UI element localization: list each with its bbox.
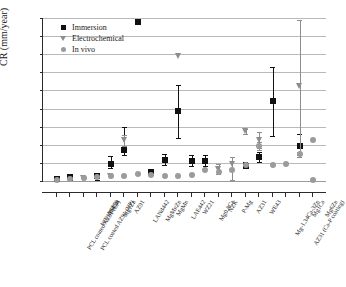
y-tick-mark [40, 36, 43, 37]
x-tick-mark [191, 192, 192, 197]
error-bar-cap [243, 134, 248, 135]
gridline [43, 181, 326, 182]
y-tick-mark [40, 127, 43, 128]
circle-icon [56, 47, 70, 52]
error-bar-cap [162, 154, 167, 155]
data-point-marker [189, 172, 195, 178]
x-tick-mark [69, 192, 70, 197]
x-tick-mark [96, 192, 97, 197]
data-point-marker [175, 108, 181, 114]
x-tick-mark [177, 192, 178, 197]
x-tick-label: AZ31 [255, 199, 268, 215]
data-point-marker [202, 158, 208, 164]
error-bar-cap [122, 146, 127, 147]
error-bar-cap [297, 20, 302, 21]
x-tick-mark [123, 192, 124, 197]
error-bar-cap [230, 180, 235, 181]
error-bar-cap [176, 138, 181, 139]
y-tick-mark [40, 54, 43, 55]
data-point-marker [216, 169, 222, 175]
x-tick-mark [299, 192, 300, 197]
error-bar-cap [270, 136, 275, 137]
data-point-marker [310, 137, 316, 143]
legend-label: In vivo [70, 44, 95, 55]
error-bar-cap [203, 155, 208, 156]
x-tick-mark [150, 192, 151, 197]
x-tick-mark [312, 192, 313, 197]
error-bar-cap [122, 135, 127, 136]
x-tick-mark [164, 192, 165, 197]
y-tick-mark [40, 72, 43, 73]
gridline [43, 127, 326, 128]
y-tick-mark [40, 109, 43, 110]
data-point-marker [256, 154, 262, 160]
data-point-marker [243, 162, 249, 168]
data-point-marker [162, 157, 168, 163]
x-tick-mark [272, 192, 273, 197]
y-tick-mark [40, 163, 43, 164]
error-bar-cap [189, 155, 194, 156]
x-tick-mark [231, 192, 232, 197]
error-bar-cap [257, 132, 262, 133]
data-point-marker [108, 161, 114, 167]
x-tick-mark [258, 192, 259, 197]
data-point-marker [296, 83, 302, 89]
data-point-marker [135, 171, 141, 177]
error-bar-cap [122, 127, 127, 128]
legend-label: Immersion [70, 22, 107, 33]
data-point-marker [81, 175, 87, 181]
data-point-marker [121, 147, 127, 153]
data-point-marker [121, 137, 127, 143]
x-tick-mark [245, 192, 246, 197]
y-tick-mark [40, 18, 43, 19]
data-point-marker [54, 177, 60, 183]
data-point-marker [94, 174, 100, 180]
legend-item-in-vivo: In vivo [56, 44, 124, 55]
data-point-marker [148, 172, 154, 178]
error-bar-cap [270, 67, 275, 68]
y-tick-mark [40, 181, 43, 182]
data-point-marker [270, 98, 276, 104]
gridline [43, 109, 326, 110]
data-point-marker [242, 128, 248, 134]
error-bar-cap [162, 165, 167, 166]
data-point-marker [229, 161, 235, 167]
data-point-marker [189, 158, 195, 164]
x-tick-label: P-Mg [241, 199, 254, 214]
error-bar-cap [108, 168, 113, 169]
triangle-down-icon [56, 36, 70, 41]
x-tick-mark [110, 192, 111, 197]
error-bar-cap [108, 156, 113, 157]
data-point-marker [121, 173, 127, 179]
data-point-marker [283, 161, 289, 167]
legend-label: Electrochemical [70, 33, 124, 44]
legend-item-electrochemical: Electrochemical [56, 33, 124, 44]
data-point-marker [135, 19, 141, 25]
y-tick-mark [40, 145, 43, 146]
x-tick-mark [204, 192, 205, 197]
data-point-marker [202, 167, 208, 173]
gridline [43, 18, 326, 19]
error-bar-cap [95, 180, 100, 181]
data-point-marker [270, 162, 276, 168]
data-point-marker [108, 173, 114, 179]
x-tick-mark [83, 192, 84, 197]
y-tick-mark [40, 90, 43, 91]
legend: ImmersionElectrochemicalIn vivo [56, 22, 124, 55]
data-point-marker [67, 176, 73, 182]
data-point-marker [229, 167, 235, 173]
gridline [43, 145, 326, 146]
x-tick-mark [285, 192, 286, 197]
error-bar-cap [122, 155, 127, 156]
error-bar-cap [257, 162, 262, 163]
error-bar-cap [176, 85, 181, 86]
x-tick-mark [56, 192, 57, 197]
error-bar-cap [230, 157, 235, 158]
data-point-marker [175, 53, 181, 59]
x-tick-mark [137, 192, 138, 197]
y-axis-title: CR (mm/year) [0, 8, 9, 66]
square-icon [56, 25, 70, 30]
x-axis-line [42, 192, 326, 193]
data-point-marker [175, 173, 181, 179]
